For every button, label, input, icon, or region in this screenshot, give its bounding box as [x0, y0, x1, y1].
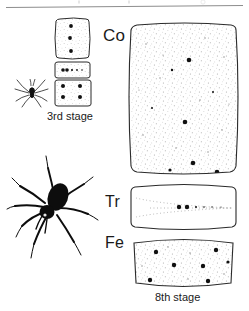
- segment-trochanter-3rd: [55, 62, 90, 78]
- segment-trochanter-8th: [131, 185, 236, 230]
- figure-drawing: [0, 0, 249, 311]
- label-trochanter: Tr: [105, 193, 120, 211]
- label-femur: Fe: [105, 234, 124, 252]
- label-coxa: Co: [103, 26, 125, 46]
- page-rule: [6, 0, 243, 8]
- segment-coxa-3rd: [55, 18, 90, 59]
- segment-femur-8th: [134, 240, 233, 287]
- caption-eighth-stage: 8th stage: [155, 291, 200, 303]
- segment-coxa-8th: [129, 23, 238, 174]
- figure-panel: Co Tr Fe 3rd stage 8th stage: [0, 0, 249, 311]
- caption-third-stage: 3rd stage: [47, 110, 93, 122]
- spider-silhouette-large-icon: [7, 156, 98, 258]
- spider-silhouette-small-icon: [15, 79, 48, 107]
- segment-femur-3rd: [55, 80, 91, 106]
